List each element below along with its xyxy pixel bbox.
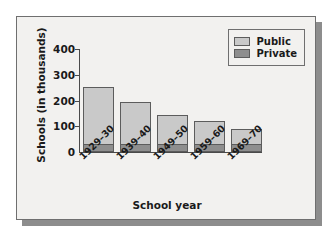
legend-swatch-private bbox=[234, 49, 250, 58]
x-axis-title: School year bbox=[17, 199, 317, 211]
legend-swatch-public bbox=[234, 37, 250, 46]
chart-legend: Public Private bbox=[228, 29, 305, 66]
legend-item-public[interactable]: Public bbox=[234, 36, 297, 47]
y-tick-label-200: 200 bbox=[41, 96, 75, 107]
legend-item-private[interactable]: Private bbox=[234, 48, 297, 59]
y-tick-label-100: 100 bbox=[41, 121, 75, 132]
legend-label-private: Private bbox=[256, 48, 297, 59]
legend-label-public: Public bbox=[256, 36, 290, 47]
y-tick-label-0: 0 bbox=[41, 147, 75, 158]
y-tick-label-300: 300 bbox=[41, 70, 75, 81]
x-axis-ticks: 1929–30 1939–40 1949–50 1959–60 1969–70 bbox=[79, 154, 262, 200]
chart-screenshot: Schools (in thousands) 400 300 200 100 0 bbox=[0, 0, 328, 244]
plot-area: Schools (in thousands) 400 300 200 100 0 bbox=[17, 17, 317, 221]
y-tick-label-400: 400 bbox=[41, 44, 75, 55]
chart-panel: Schools (in thousands) 400 300 200 100 0 bbox=[16, 16, 316, 220]
